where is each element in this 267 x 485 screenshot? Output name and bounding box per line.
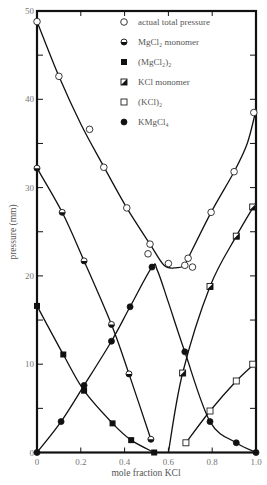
data-point	[108, 338, 114, 344]
data-point	[81, 382, 87, 388]
legend-marker	[121, 59, 127, 65]
y-tick-label: 30	[25, 183, 35, 193]
data-point	[165, 260, 172, 267]
data-point	[108, 321, 114, 327]
data-point	[60, 351, 66, 357]
legend-label: KCl monomer	[138, 77, 190, 87]
data-point	[58, 419, 64, 425]
x-tick-label: 0.2	[75, 457, 86, 467]
legend-label: (MgCl₂)₂	[138, 57, 171, 67]
legend-item: actual total pressure	[121, 17, 210, 27]
data-point	[233, 440, 239, 446]
data-point	[207, 408, 213, 414]
data-point	[110, 420, 116, 426]
open-circle-marker	[231, 168, 238, 175]
data-point	[185, 255, 192, 262]
data-point	[145, 251, 152, 258]
data-point	[207, 419, 213, 425]
chart: 00.20.40.60.81.001020304050 actual total…	[0, 0, 267, 485]
filled-circle-marker	[253, 450, 259, 456]
data-point	[59, 209, 65, 215]
data-point	[34, 303, 40, 309]
open-square-marker	[207, 408, 213, 414]
filled-circle-marker	[127, 304, 133, 310]
legend-item: KMgCl₄	[121, 117, 169, 127]
legend-marker	[121, 79, 127, 85]
data-point	[183, 440, 189, 446]
filled-circle-marker	[81, 382, 87, 388]
filled-circle-marker	[58, 419, 64, 425]
data-point	[180, 370, 186, 376]
data-point	[250, 204, 256, 210]
filled-circle-marker	[233, 440, 239, 446]
x-axis-label: mole fraction KCl	[111, 468, 180, 478]
open-circle-marker	[86, 126, 93, 133]
filled-square-marker	[34, 303, 40, 309]
open-circle-marker	[189, 264, 196, 271]
data-point	[233, 233, 239, 239]
data-point	[189, 264, 196, 271]
open-square-marker	[183, 440, 189, 446]
open-square-marker	[233, 378, 239, 384]
filled-circle-marker	[121, 119, 127, 125]
data-point	[34, 450, 40, 456]
y-tick-label: 20	[25, 271, 35, 281]
data-point	[56, 73, 63, 80]
data-point	[250, 361, 256, 367]
data-point	[34, 165, 40, 171]
data-point	[148, 436, 154, 442]
legend-item: MgCl₂ monomer	[121, 37, 199, 47]
legend-item: (MgCl₂)₂	[121, 57, 171, 67]
filled-circle-marker	[149, 264, 155, 270]
filled-circle-marker	[207, 419, 213, 425]
filled-square-marker	[60, 351, 66, 357]
data-point	[182, 349, 188, 355]
open-circle-marker	[208, 209, 215, 216]
x-tick-label: 0.8	[207, 457, 219, 467]
y-tick-label: 50	[25, 6, 35, 16]
legend-label: MgCl₂ monomer	[138, 37, 199, 47]
legend-marker	[121, 99, 127, 105]
open-square-marker	[250, 361, 256, 367]
data-point	[127, 304, 133, 310]
data-point	[207, 283, 213, 289]
open-circle-marker	[185, 255, 192, 262]
legend-label: actual total pressure	[138, 17, 210, 27]
open-circle-marker	[182, 262, 189, 269]
filled-square-marker	[121, 59, 127, 65]
legend: actual total pressureMgCl₂ monomer(MgCl₂…	[121, 17, 210, 127]
legend-item: (KCl)₂	[121, 97, 162, 107]
legend-marker	[121, 19, 128, 26]
open-square-marker	[121, 99, 127, 105]
open-circle-marker	[251, 109, 258, 116]
data-point	[231, 168, 238, 175]
data-point	[81, 258, 87, 264]
series-line	[168, 203, 256, 453]
data-point	[100, 164, 107, 171]
data-point	[149, 264, 155, 270]
filled-square-marker	[151, 450, 157, 456]
x-tick-label: 1.0	[250, 457, 262, 467]
data-point	[251, 109, 258, 116]
y-tick-label: 40	[25, 94, 35, 104]
data-point	[34, 18, 41, 25]
legend-item: KCl monomer	[121, 77, 190, 87]
open-circle-marker	[123, 205, 130, 212]
open-circle-marker	[100, 164, 107, 171]
open-circle-marker	[121, 19, 128, 26]
series-line	[186, 362, 256, 442]
series-line	[37, 168, 151, 439]
filled-circle-marker	[182, 349, 188, 355]
filled-circle-marker	[108, 338, 114, 344]
data-point	[86, 126, 93, 133]
open-circle-marker	[147, 241, 154, 248]
data-point	[253, 450, 259, 456]
data-point	[123, 205, 130, 212]
data-point	[182, 262, 189, 269]
x-tick-label: 0.6	[163, 457, 175, 467]
data-point	[208, 209, 215, 216]
legend-marker	[121, 39, 127, 45]
data-point	[147, 241, 154, 248]
x-tick-label: 0	[35, 457, 40, 467]
legend-label: KMgCl₄	[138, 117, 169, 127]
